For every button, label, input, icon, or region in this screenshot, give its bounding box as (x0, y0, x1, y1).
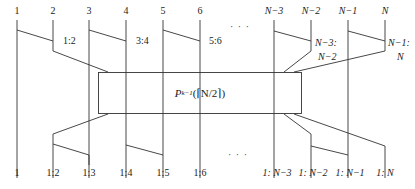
comparator-label-n3-n2-line2: N−2 (318, 51, 336, 62)
output-label-1-5: 1:5 (157, 167, 170, 178)
comparator-label-5-6: 5:6 (209, 35, 222, 46)
output-label-1-6: 1:6 (194, 167, 207, 178)
comparator-label-n1-n-line2: N (397, 51, 404, 62)
input-label-3: 3 (87, 5, 92, 16)
input-label-6: 6 (198, 5, 203, 16)
input-label-1: 1 (15, 5, 20, 16)
comparator-label-1-2: 1:2 (63, 35, 76, 46)
comparator-label-n3-n2-line1: N−3: (315, 37, 337, 48)
input-label-n: N (382, 5, 389, 16)
output-label-1-n3: 1: N−3 (262, 167, 291, 178)
output-label-1-4: 1:4 (120, 167, 133, 178)
input-label-n-minus-3: N−3 (265, 5, 283, 16)
input-label-5: 5 (161, 5, 166, 16)
output-label-1-n2: 1: N−2 (298, 167, 327, 178)
input-label-2: 2 (51, 5, 56, 16)
block-name: P (175, 87, 182, 99)
input-label-4: 4 (124, 5, 129, 16)
output-label-1-2: 1:2 (47, 167, 60, 178)
output-label-1: 1 (15, 167, 20, 178)
input-label-n-minus-2: N−2 (302, 5, 320, 16)
output-label-1-3: 1:3 (83, 167, 96, 178)
output-label-1-n1: 1: N−1 (335, 167, 364, 178)
block-argument: (⌈N/2⌉) (193, 87, 225, 100)
comparator-label-n1-n-line1: N−1: (388, 37, 410, 48)
input-label-n-minus-1: N−1 (339, 5, 357, 16)
comparator-label-3-4: 3:4 (136, 35, 149, 46)
ellipsis-bottom: · · · (228, 149, 248, 160)
block-subscript: k−1 (181, 89, 192, 97)
recursive-block-label: Pk−1(⌈N/2⌉) (98, 72, 302, 114)
ellipsis-top: · · · (230, 21, 250, 32)
output-label-1-n: 1: N (376, 167, 394, 178)
